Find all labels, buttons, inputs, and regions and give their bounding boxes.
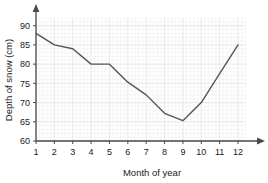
x-tick-label: 3 <box>70 147 75 157</box>
y-tick-label: 65 <box>20 117 30 127</box>
x-tick-label: 8 <box>162 147 167 157</box>
x-tick-label: 10 <box>196 147 206 157</box>
y-tick-label: 70 <box>20 98 30 108</box>
x-tick-label: 5 <box>107 147 112 157</box>
axes <box>33 4 265 144</box>
x-tick-label: 7 <box>144 147 149 157</box>
x-tick-label: 4 <box>89 147 94 157</box>
y-tick-label: 85 <box>20 40 30 50</box>
x-tick-label: 11 <box>215 147 224 157</box>
x-tick-label: 9 <box>180 147 185 157</box>
chart-canvas: 60657075808590 123456789101112 Depth of … <box>0 0 268 183</box>
y-axis-title: Depth of snow (cm) <box>3 39 14 121</box>
y-tick-label: 60 <box>20 136 30 146</box>
x-tick-label: 6 <box>125 147 130 157</box>
x-tick-label: 1 <box>33 147 38 157</box>
y-axis-tick-labels: 60657075808590 <box>20 21 30 146</box>
minor-gridlines <box>36 18 246 141</box>
x-axis-title: Month of year <box>123 167 181 178</box>
x-axis-arrow-icon <box>257 138 265 145</box>
y-axis-arrow-icon <box>33 4 40 12</box>
y-tick-label: 75 <box>20 79 30 89</box>
y-tick-label: 90 <box>20 21 30 31</box>
snow-depth-series-line <box>36 33 238 120</box>
x-axis-tick-labels: 123456789101112 <box>33 147 243 157</box>
x-tick-label: 2 <box>52 147 57 157</box>
x-tick-label: 12 <box>233 147 243 157</box>
y-tick-label: 80 <box>20 59 30 69</box>
snow-depth-line-chart: 60657075808590 123456789101112 Depth of … <box>0 0 268 183</box>
